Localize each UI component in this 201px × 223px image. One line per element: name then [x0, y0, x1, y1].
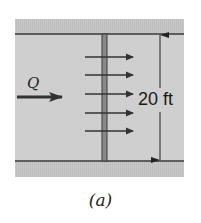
width-dimension-label: 20 ft [137, 89, 174, 109]
bottom-bank [15, 161, 184, 177]
figure-caption: (a) [0, 190, 201, 210]
channel-flow-diagram: Q 20 ft (a) [0, 0, 201, 223]
flow-rate-label: Q [27, 74, 39, 92]
top-bank [15, 19, 184, 34]
cross-section-bar [102, 34, 107, 161]
